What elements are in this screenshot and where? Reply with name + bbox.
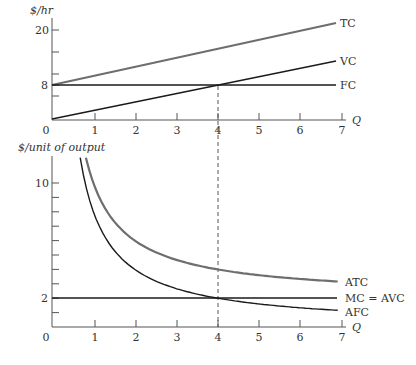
vc-line xyxy=(52,61,336,119)
top-x-tick-6: 6 xyxy=(297,124,304,137)
bottom-y-tick-2: 2 xyxy=(41,292,48,305)
mc-avc-label: MC = AVC xyxy=(345,292,405,305)
atc-curve xyxy=(86,158,338,282)
top-y-axis-label: $/hr xyxy=(30,4,54,17)
top-y-ticks xyxy=(52,30,59,96)
bottom-y-axis-label: $/unit of output xyxy=(18,141,106,154)
top-x-tick-2: 2 xyxy=(133,124,140,137)
bottom-x-tick-6: 6 xyxy=(297,331,304,344)
top-y-tick-8: 8 xyxy=(41,79,48,92)
bottom-x-ticks xyxy=(95,320,342,327)
tc-line xyxy=(52,23,336,85)
cost-curves-chart: $/hr 20 8 0 1 2 3 4 5 xyxy=(0,0,416,365)
afc-curve xyxy=(80,158,338,311)
bottom-x-tick-1: 1 xyxy=(92,331,99,344)
bottom-x-tick-5: 5 xyxy=(256,331,263,344)
top-x-axis-label: Q xyxy=(352,114,361,127)
top-x-tick-1: 1 xyxy=(92,124,99,137)
bottom-x-tick-4: 4 xyxy=(215,331,222,344)
bottom-x-tick-7: 7 xyxy=(339,331,346,344)
top-x-tick-labels: 0 1 2 3 4 5 6 7 xyxy=(43,124,346,137)
tc-label: TC xyxy=(340,17,356,30)
bottom-x-tick-0: 0 xyxy=(43,331,50,344)
bottom-x-tick-3: 3 xyxy=(174,331,181,344)
bottom-x-axis-label: Q xyxy=(352,321,361,334)
top-x-tick-3: 3 xyxy=(174,124,181,137)
afc-label: AFC xyxy=(344,306,369,319)
top-x-tick-5: 5 xyxy=(256,124,263,137)
bottom-panel: $/unit of output 10 2 xyxy=(18,141,405,344)
top-x-tick-0: 0 xyxy=(43,124,50,137)
vc-label: VC xyxy=(339,55,356,68)
top-x-tick-7: 7 xyxy=(339,124,346,137)
fc-label: FC xyxy=(340,79,356,92)
top-panel: $/hr 20 8 0 1 2 3 4 5 xyxy=(30,4,361,137)
bottom-y-tick-10: 10 xyxy=(35,177,49,190)
bottom-y-ticks xyxy=(52,183,59,313)
bottom-x-tick-labels: 0 1 2 3 4 5 6 7 xyxy=(43,331,346,344)
atc-label: ATC xyxy=(344,276,368,289)
top-y-tick-20: 20 xyxy=(35,24,49,37)
bottom-x-tick-2: 2 xyxy=(133,331,140,344)
